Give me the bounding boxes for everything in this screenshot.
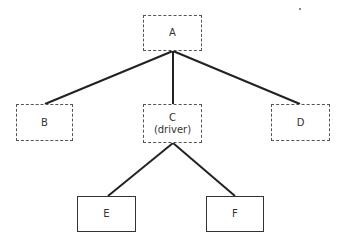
node-e: E <box>77 196 136 232</box>
node-c: C (driver) <box>143 104 202 143</box>
edge-a-d <box>173 51 300 104</box>
node-c-label: C <box>169 112 176 124</box>
node-d: D <box>271 104 330 141</box>
node-e-label: E <box>103 208 109 220</box>
node-a: A <box>143 15 202 51</box>
edge-c-e <box>108 143 173 196</box>
node-b-label: B <box>41 117 48 129</box>
node-f-label: F <box>232 208 238 220</box>
node-c-sublabel: (driver) <box>154 124 191 136</box>
node-d-label: D <box>297 117 305 129</box>
edge-c-f <box>173 143 235 196</box>
edge-a-b <box>45 51 173 104</box>
node-f: F <box>206 196 264 232</box>
node-b: B <box>16 104 73 141</box>
node-a-label: A <box>169 27 176 39</box>
stray-mark <box>299 8 301 10</box>
